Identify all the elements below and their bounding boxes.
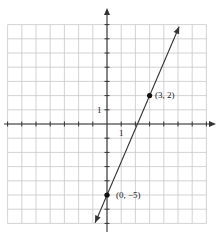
y-tick-label: 1 [97,105,102,115]
point-0-neg5 [104,192,109,197]
x-tick-label: 1 [119,128,124,138]
point-0-neg5-label: (0, −5) [116,190,141,200]
point-3-2 [147,93,152,98]
y-axis-arrow-icon [104,8,110,15]
x-axis-arrow-icon [209,121,216,127]
coordinate-plane: 1 1 (3, 2) (0, −5) [0,0,221,238]
point-3-2-label: (3, 2) [155,90,175,100]
